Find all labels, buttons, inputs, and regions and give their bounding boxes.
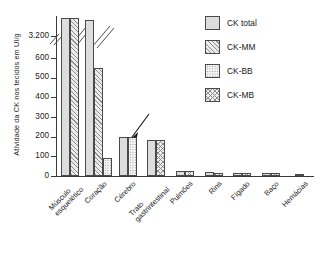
plot-area: 01002003004005006003.200 Músculoesquelét… xyxy=(56,16,314,176)
y-tick-label: 0 xyxy=(44,171,49,180)
y-tick-label: 600 xyxy=(35,53,49,62)
bar-total xyxy=(85,20,94,176)
legend-swatch-mm xyxy=(205,40,220,54)
bar-group xyxy=(85,20,114,176)
legend-swatch-mb xyxy=(205,88,220,102)
legend-item-bb[interactable]: CK-BB xyxy=(205,64,257,78)
bar-group xyxy=(56,18,85,176)
bar-total xyxy=(205,172,214,176)
bar-group xyxy=(113,137,142,176)
bar-group xyxy=(199,172,228,176)
legend-swatch-total xyxy=(205,16,220,30)
x-tick-label: Baço xyxy=(263,180,281,198)
bar-total xyxy=(262,173,271,176)
x-tick-label: Fígado xyxy=(230,180,252,202)
legend-swatch-bb xyxy=(205,64,220,78)
legend-label: CK-MM xyxy=(227,42,255,52)
legend-item-total[interactable]: CK total xyxy=(205,16,257,30)
bar-mm xyxy=(70,18,79,176)
y-axis-title: Atividade da CK nos tecidos em UI/g xyxy=(12,10,21,180)
bar-group xyxy=(142,140,171,176)
legend-item-mb[interactable]: CK-MB xyxy=(205,88,257,102)
chart-legend: CK totalCK-MMCK-BBCK-MB xyxy=(205,16,257,102)
y-tick-mark xyxy=(51,176,56,177)
bar-mb xyxy=(242,173,251,176)
y-tick-label: 400 xyxy=(35,92,49,101)
bar-mb xyxy=(271,173,280,176)
x-tick-label: Hemácias xyxy=(280,180,309,209)
bar-total xyxy=(176,171,185,176)
legend-item-mm[interactable]: CK-MM xyxy=(205,40,257,54)
y-tick-label: 100 xyxy=(35,151,49,160)
y-tick-label: 200 xyxy=(35,131,49,140)
bar-total xyxy=(233,173,242,176)
bar-mb xyxy=(185,171,194,176)
bar-bb xyxy=(103,158,112,176)
y-tick-label: 300 xyxy=(35,112,49,121)
bar-group xyxy=(285,174,314,176)
bar-mm xyxy=(214,173,223,176)
x-tick-label: Pulmões xyxy=(169,180,195,206)
x-tick-label: Músculoesquelético xyxy=(48,180,86,218)
bar-total xyxy=(147,140,156,176)
y-tick-label: 500 xyxy=(35,72,49,81)
bar-mm xyxy=(94,68,103,176)
legend-label: CK total xyxy=(227,18,257,28)
bar-total xyxy=(119,137,128,176)
legend-label: CK-MB xyxy=(227,90,254,100)
bar-bb xyxy=(128,137,137,176)
x-tick-label: Cérebro xyxy=(113,180,138,205)
bar-total xyxy=(295,174,304,176)
x-tick-label: Rins xyxy=(207,180,223,196)
bar-group xyxy=(257,173,286,176)
bar-group xyxy=(171,171,200,176)
ck-activity-bar-chart: Atividade da CK nos tecidos em UI/g 0100… xyxy=(0,0,334,267)
legend-label: CK-BB xyxy=(227,66,253,76)
bar-mb xyxy=(156,140,165,176)
bar-group xyxy=(228,173,257,176)
y-tick-label: 3.200 xyxy=(29,31,50,40)
x-tick-label: Coração xyxy=(83,180,109,206)
x-axis-line xyxy=(56,176,314,177)
bar-total xyxy=(61,18,70,176)
